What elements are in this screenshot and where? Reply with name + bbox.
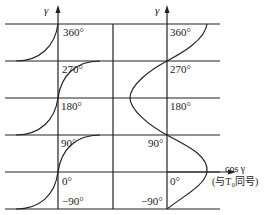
cos-axis-note: (与T₀同号) <box>212 176 258 187</box>
right-tick-270: 270° <box>170 64 191 75</box>
left-curve-upper <box>16 24 58 61</box>
left-tick-360: 360° <box>63 27 84 38</box>
right-tick-180: 180° <box>170 101 191 112</box>
right-cosine-curve <box>130 24 207 209</box>
left-tick-neg90: −90° <box>62 196 84 207</box>
right-tick-360: 360° <box>170 27 191 38</box>
left-axis-label: γ <box>44 5 48 16</box>
left-tick-270: 270° <box>62 64 83 75</box>
right-axis-label: γ <box>155 5 159 16</box>
left-tick-0: 0° <box>62 176 72 187</box>
left-axis-arrow-icon <box>56 5 61 13</box>
right-tick-0: 0° <box>170 176 180 187</box>
right-tick-neg90: −90° <box>141 196 163 207</box>
right-axis-arrow-icon <box>165 5 170 13</box>
right-tick-90: 90° <box>148 138 163 149</box>
cos-axis-label: cos γ <box>225 163 245 174</box>
left-tick-90: 90° <box>61 138 76 149</box>
left-tick-180: 180° <box>61 101 82 112</box>
